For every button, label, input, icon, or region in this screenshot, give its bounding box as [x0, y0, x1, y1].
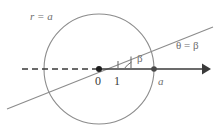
axis-arrowhead-icon [202, 64, 211, 75]
point-origin [96, 66, 102, 72]
label-radius-point: a [158, 76, 164, 87]
label-circle-equation: r = a [30, 11, 53, 22]
label-ray-equation: θ = β [176, 40, 199, 51]
polar-diagram-figure: r = a θ = β β 0 1 a [0, 0, 220, 136]
label-unit: 1 [114, 75, 120, 87]
angle-arc-beta [124, 62, 132, 69]
label-angle-beta: β [137, 53, 143, 64]
point-radius-a [151, 66, 157, 72]
label-origin: 0 [95, 75, 101, 87]
